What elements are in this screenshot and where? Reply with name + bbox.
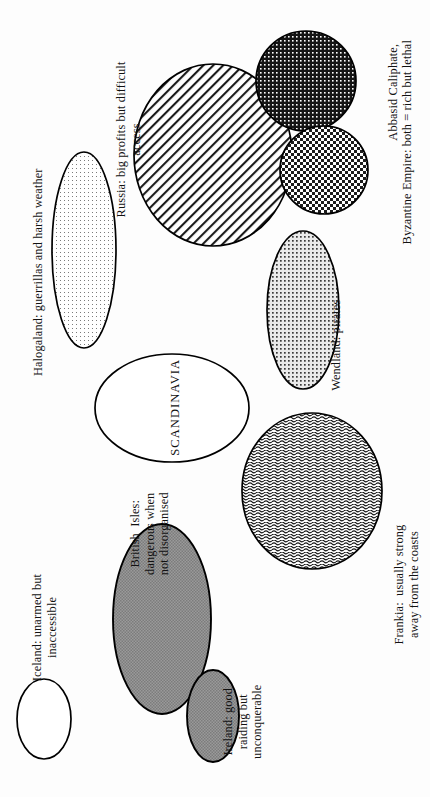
region-label-russia: Russia: big profits but difficult access xyxy=(114,45,143,235)
region-label-frankia: Frankia: usually strong away from the co… xyxy=(392,475,421,695)
region-label-abbasid: Abbasid Caliphate, xyxy=(386,0,401,185)
region-label-wendland: Wendland: pirates xyxy=(329,283,344,408)
region-shape-wendland[interactable] xyxy=(267,231,339,389)
region-shape-frankia[interactable] xyxy=(242,413,382,569)
region-shape-halogaland[interactable] xyxy=(52,152,116,348)
region-label-ireland: Ireland: good raiding but unconquerable xyxy=(221,662,265,782)
region-shape-abbasid[interactable] xyxy=(256,31,356,131)
region-label-scandinavia: SCANDINAVIA xyxy=(168,347,183,467)
region-label-halogaland: Halogaland: guerrillas and harsh weather xyxy=(31,130,46,415)
map-canvas: Halogaland: guerrillas and harsh weather… xyxy=(0,0,430,797)
region-label-byzantine: Byzantine Empire: both = rich but lethal xyxy=(400,0,415,285)
region-shape-byzantine[interactable] xyxy=(280,126,368,214)
region-label-british-isles: British Isles: dangerous when not disorg… xyxy=(128,474,172,594)
region-label-iceland: Iceland: unarmed but inaccessible xyxy=(30,553,59,703)
map-shapes-layer xyxy=(0,0,430,797)
